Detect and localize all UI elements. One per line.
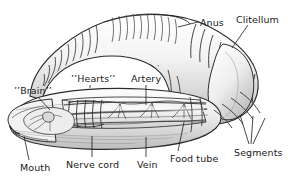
label-brain: ’’Brain’’ [14,85,52,96]
label-vein: Vein [137,159,158,170]
label-anus: Anus [200,17,224,28]
label-clitellum: Clitellum [236,14,279,25]
label-hearts: ’’Hearts’’ [71,73,115,84]
label-food-tube: Food tube [170,153,218,164]
label-artery: Artery [131,73,161,84]
label-mouth: Mouth [20,162,50,173]
brain-structure [43,112,55,122]
earthworm-anatomy-figure: Anus Clitellum ’’Hearts’’ Artery ’’Brain… [0,0,302,184]
label-segments: Segments [234,147,283,158]
label-nerve-cord: Nerve cord [66,159,119,170]
